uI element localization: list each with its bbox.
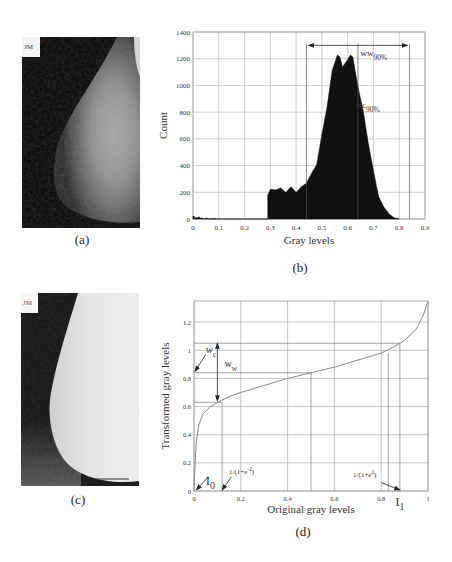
x-tick-label: 0.9: [421, 224, 430, 232]
annotation-label: I0: [206, 473, 215, 491]
y-tick-label: 0.2: [183, 459, 191, 466]
x-tick-label: 0.5: [318, 224, 327, 232]
x-axis-label: Gray levels: [284, 234, 334, 246]
x-tick-label: 1: [426, 495, 429, 502]
x-tick-label: 0.6: [343, 224, 352, 232]
x-axis-label: Original gray levels: [267, 503, 354, 515]
x-tick-label: 0.2: [237, 495, 245, 502]
x-tick-label: 0.8: [395, 224, 404, 232]
inflection-high-arrow: [381, 483, 400, 490]
y-tick-label: 1200: [176, 55, 191, 63]
x-tick-label: 0: [192, 495, 195, 502]
y-tick-label: 0.8: [183, 375, 191, 382]
panel-c-caption: (c): [58, 492, 98, 508]
x-tick-label: 0.4: [292, 224, 301, 232]
annotation-label: 1/(1+e2): [353, 469, 377, 479]
annotation-label: ww90%: [361, 48, 388, 62]
x-tick-label: 0.7: [369, 224, 378, 232]
y-tick-label: 1: [188, 347, 191, 354]
y-tick-label: 1000: [176, 82, 191, 90]
y-axis-label: Count: [157, 112, 169, 139]
histogram-chart: 00.10.20.30.40.50.60.70.80.9020040060080…: [155, 20, 452, 280]
y-tick-label: 600: [180, 135, 191, 143]
y-tick-label: 0.4: [183, 431, 192, 438]
annotation-label: 1/(1+e-2): [229, 466, 255, 476]
x-tick-label: 0: [191, 224, 195, 232]
y-tick-label: 800: [180, 109, 191, 117]
transform-curve-chart: 00.20.40.60.8100.20.40.60.811.2I01/(1+e-…: [155, 288, 452, 538]
annotation-label: I1: [395, 494, 404, 512]
panel-b-caption: (b): [280, 260, 320, 276]
y-tick-label: 0: [187, 216, 191, 224]
inflection-low-arrow: [222, 477, 231, 490]
y-tick-label: 1.2: [183, 319, 191, 326]
y-tick-label: 1400: [176, 29, 191, 37]
mammogram-enhanced-image: JM: [21, 293, 139, 486]
annotation-label: ww: [224, 358, 237, 373]
image-marker-label: JM: [24, 43, 33, 51]
x-tick-label: 0.2: [240, 224, 249, 232]
panel-d-caption: (d): [283, 524, 323, 540]
annotation-label: wc: [206, 344, 217, 359]
image-marker-label: JM: [23, 299, 32, 307]
y-tick-label: 0: [188, 488, 191, 495]
x-tick-label: 0.8: [377, 495, 385, 502]
panel-a-caption: (a): [62, 232, 102, 248]
y-tick-label: 200: [180, 189, 191, 197]
x-tick-label: 0.4: [284, 495, 293, 502]
y-axis-label: Transformed gray levels: [159, 342, 171, 449]
wc-arrow: [195, 354, 206, 371]
mammogram-original-image: JM: [22, 37, 140, 228]
x-tick-label: 0.6: [330, 495, 339, 502]
x-tick-label: 0.3: [266, 224, 275, 232]
x-tick-label: 0.1: [214, 224, 223, 232]
y-tick-label: 0.6: [183, 403, 192, 410]
y-tick-label: 400: [180, 162, 191, 170]
